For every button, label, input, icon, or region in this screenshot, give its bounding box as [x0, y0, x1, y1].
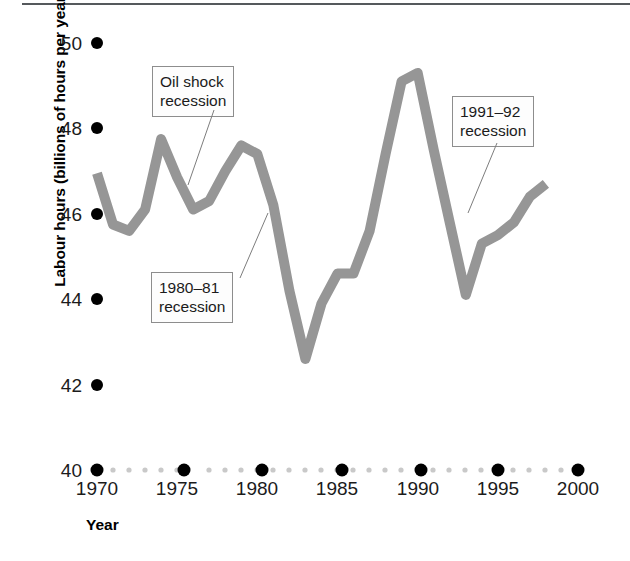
x-axis-tick-dots — [91, 464, 585, 477]
annotation-leader-lines — [188, 110, 497, 278]
leader-line-1980-81 — [240, 213, 268, 278]
plot-canvas — [0, 0, 630, 561]
leader-line-oil-shock — [188, 110, 214, 185]
chart-figure: Labour hours (billions of hours per year… — [0, 0, 630, 561]
leader-line-1991-92 — [468, 143, 497, 213]
data-series-line — [97, 73, 546, 359]
y-axis-tick-dots — [91, 37, 103, 391]
